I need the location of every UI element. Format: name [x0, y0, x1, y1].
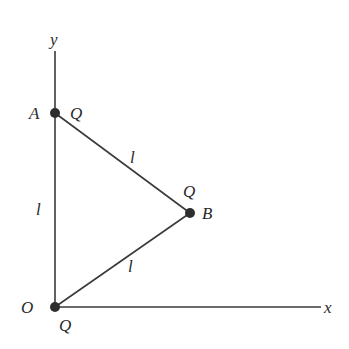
charge-label-b: Q — [183, 182, 195, 201]
charge-label-a: Q — [70, 104, 82, 123]
y-axis-label: y — [48, 30, 58, 49]
label-o: O — [21, 298, 33, 317]
charge-label-o: Q — [59, 316, 71, 335]
label-b: B — [202, 204, 213, 223]
equilateral-charge-diagram: y x A B O Q Q Q l l l — [0, 0, 349, 349]
side-ob — [55, 213, 190, 307]
side-label-oa: l — [36, 200, 41, 219]
side-label-ob: l — [128, 257, 133, 276]
point-a — [50, 108, 60, 118]
label-a: A — [28, 104, 40, 123]
side-ab — [55, 113, 190, 213]
x-axis-label: x — [323, 298, 332, 317]
point-o — [50, 302, 60, 312]
point-b — [185, 208, 195, 218]
side-label-ab: l — [130, 148, 135, 167]
